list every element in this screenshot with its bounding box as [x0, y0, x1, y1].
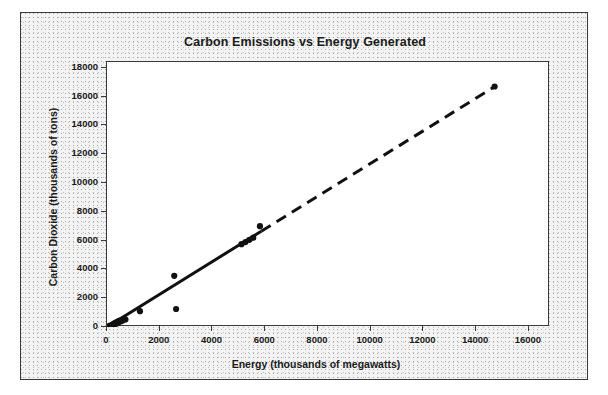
x-tick-label: 8000: [287, 334, 347, 345]
y-tick-label: 12000: [46, 147, 98, 158]
y-tick-label: 6000: [46, 234, 98, 245]
data-point-marker: [137, 308, 143, 314]
x-tick-label: 14000: [445, 334, 505, 345]
x-tick-label: 12000: [392, 334, 452, 345]
y-axis-title: Carbon Dioxide (thousands of tons): [47, 82, 59, 312]
y-tick-label: 14000: [46, 118, 98, 129]
y-tick-label: 18000: [46, 61, 98, 72]
trend-line-dashed: [261, 86, 496, 231]
scatter-plot-canvas: [107, 62, 550, 327]
x-tick-label: 10000: [340, 334, 400, 345]
data-point-marker: [122, 316, 128, 322]
data-point-marker: [171, 273, 177, 279]
x-tick-label: 2000: [129, 334, 189, 345]
y-tick-label: 16000: [46, 90, 98, 101]
data-point-marker: [173, 306, 179, 312]
chart-title: Carbon Emissions vs Energy Generated: [21, 35, 589, 49]
data-point-marker: [250, 235, 256, 241]
x-tick-label: 6000: [234, 334, 294, 345]
y-tick-label: 4000: [46, 262, 98, 273]
data-point-marker: [257, 223, 263, 229]
y-tick-label: 10000: [46, 176, 98, 187]
chart-outer-frame: Carbon Emissions vs Energy Generated Car…: [20, 12, 588, 380]
x-axis-title: Energy (thousands of megawatts): [81, 358, 551, 370]
x-tick-label: 4000: [181, 334, 241, 345]
x-tick-label: 16000: [498, 334, 558, 345]
y-tick-label: 8000: [46, 205, 98, 216]
y-tick-label: 2000: [46, 291, 98, 302]
data-point-marker: [492, 83, 498, 89]
y-tick-label: 0: [46, 320, 98, 331]
plot-area: [106, 61, 549, 326]
chart-figure: Carbon Emissions vs Energy Generated Car…: [0, 0, 608, 395]
trend-line-solid: [107, 231, 261, 327]
x-tick-label: 0: [76, 334, 136, 345]
